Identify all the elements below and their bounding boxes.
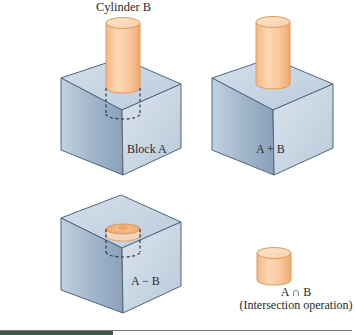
panel-intersection — [257, 248, 291, 286]
intersection-label-group: A ∩ B (Intersection operation) — [237, 286, 355, 312]
footer-rule — [0, 330, 352, 335]
difference-block — [61, 195, 181, 313]
union-label: A + B — [256, 143, 285, 156]
intersection-caption: (Intersection operation) — [237, 299, 355, 312]
cylinder-b-label: Cylinder B — [96, 1, 151, 14]
intersection-cylinder — [257, 248, 291, 286]
union-cylinder — [256, 17, 290, 90]
panel-difference — [61, 195, 181, 313]
difference-label: A − B — [131, 275, 160, 288]
footer-accent-bar — [0, 331, 113, 335]
block-a-label: Block A — [127, 143, 167, 156]
cylinder-b — [106, 18, 140, 94]
